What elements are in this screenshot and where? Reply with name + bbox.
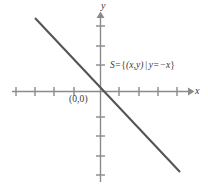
x-axis-arrowhead <box>188 88 195 96</box>
set-close-brace: } <box>170 60 175 70</box>
graph-figure: y x (0,0) S={(x,y)|y=−x} <box>0 0 208 187</box>
y-axis-arrowhead <box>97 12 105 19</box>
x-axis-label: x <box>195 86 200 96</box>
set-tuple: (x,y) <box>126 60 144 70</box>
y-axis-label: y <box>101 1 106 11</box>
set-definition-label: S={(x,y)|y=−x} <box>110 61 175 71</box>
condition-rhs: −x <box>159 60 170 70</box>
coordinate-plane-svg <box>0 0 208 187</box>
origin-label: (0,0) <box>69 95 88 105</box>
